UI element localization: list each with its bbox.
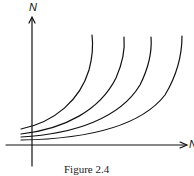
x-axis-label: N <box>189 139 194 150</box>
curve-2 <box>21 37 124 134</box>
curve-3 <box>21 37 151 137</box>
y-axis-label: N <box>29 2 37 13</box>
curve-4 <box>21 36 182 140</box>
figure-caption: Figure 2.4 <box>64 163 109 175</box>
diagram-canvas <box>0 0 194 176</box>
